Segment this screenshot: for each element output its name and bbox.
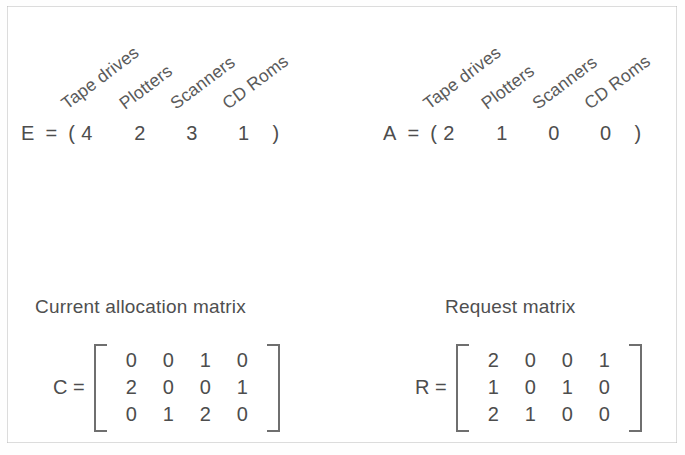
matrix-label-c: C =: [53, 376, 85, 399]
vector-value-a-1: 1: [479, 122, 525, 145]
matrix-cell-r-2-3: 0: [586, 401, 623, 428]
vector-close-paren-a: ): [635, 122, 642, 145]
matrix-cell-r-1-3: 0: [586, 374, 623, 401]
matrix-block-c: Current allocation matrix C = 0 0 1 0 2 …: [35, 296, 280, 432]
matrix-cell-c-2-1: 1: [150, 401, 187, 428]
matrix-cell-r-2-2: 0: [549, 401, 586, 428]
vector-row-a: A = ( 2 1 0 0 ): [383, 122, 642, 145]
matrix-cell-c-0-0: 0: [113, 347, 150, 374]
matrix-cell-c-0-1: 0: [150, 347, 187, 374]
vector-value-e-0: 4: [81, 122, 111, 145]
matrix-cell-c-0-3: 0: [224, 347, 261, 374]
vector-value-a-3: 0: [583, 122, 629, 145]
matrix-cell-r-1-0: 1: [475, 374, 512, 401]
vector-close-paren-e: ): [273, 122, 280, 145]
matrix-right-bracket-c: [267, 344, 280, 432]
matrix-cell-c-2-3: 0: [224, 401, 261, 428]
matrix-right-bracket-r: [629, 344, 642, 432]
matrix-cell-r-2-0: 2: [475, 401, 512, 428]
vector-equals-e: =: [46, 122, 58, 145]
vector-value-a-2: 0: [531, 122, 577, 145]
matrix-grid-c: 0 0 1 0 2 0 0 1 0 1 2 0: [107, 344, 267, 432]
matrix-row: 2 0 0 1: [113, 374, 261, 401]
matrix-body-r: R = 2 0 0 1 1 0 1 0 2 1: [415, 344, 642, 432]
vector-value-e-3: 1: [221, 122, 267, 145]
matrix-cell-r-0-2: 0: [549, 347, 586, 374]
vector-name-e: E: [21, 122, 35, 145]
matrix-cell-r-0-3: 1: [586, 347, 623, 374]
matrix-left-bracket-r: [456, 344, 469, 432]
matrix-equals-r: =: [435, 376, 447, 398]
vector-value-e-2: 3: [169, 122, 215, 145]
vector-name-a: A: [383, 122, 397, 145]
vector-value-a-0: 2: [443, 122, 473, 145]
matrix-row: 1 0 1 0: [475, 374, 623, 401]
matrix-cell-c-2-0: 0: [113, 401, 150, 428]
matrix-cell-c-1-2: 0: [187, 374, 224, 401]
figure-page: Tape drives Plotters Scanners CD Roms E …: [0, 0, 685, 455]
matrix-equals-c: =: [73, 376, 85, 398]
matrix-cell-c-1-3: 1: [224, 374, 261, 401]
vector-value-e-1: 2: [117, 122, 163, 145]
matrix-name-r: R: [415, 376, 429, 398]
matrix-label-r: R =: [415, 376, 447, 399]
vector-row-e: E = ( 4 2 3 1 ): [21, 122, 280, 145]
matrix-name-c: C: [53, 376, 67, 398]
matrix-row: 2 0 0 1: [475, 347, 623, 374]
matrix-caption-r: Request matrix: [445, 296, 642, 318]
vector-equals-a: =: [408, 122, 420, 145]
matrix-cell-c-1-1: 0: [150, 374, 187, 401]
matrix-cell-r-2-1: 1: [512, 401, 549, 428]
matrix-grid-r: 2 0 0 1 1 0 1 0 2 1 0 0: [469, 344, 629, 432]
matrix-cell-c-1-0: 2: [113, 374, 150, 401]
matrix-caption-c: Current allocation matrix: [35, 296, 280, 318]
matrix-block-r: Request matrix R = 2 0 0 1 1 0 1 0: [397, 296, 642, 432]
matrix-cell-r-1-2: 1: [549, 374, 586, 401]
matrix-cell-r-1-1: 0: [512, 374, 549, 401]
matrix-row: 0 0 1 0: [113, 347, 261, 374]
matrix-cell-r-0-1: 0: [512, 347, 549, 374]
matrix-row: 0 1 2 0: [113, 401, 261, 428]
matrix-cell-c-2-2: 2: [187, 401, 224, 428]
matrix-body-c: C = 0 0 1 0 2 0 0 1 0 1: [53, 344, 280, 432]
matrix-cell-r-0-0: 2: [475, 347, 512, 374]
matrix-cell-c-0-2: 1: [187, 347, 224, 374]
matrix-left-bracket-c: [94, 344, 107, 432]
matrix-row: 2 1 0 0: [475, 401, 623, 428]
vector-open-paren-e: (: [68, 122, 75, 145]
vector-open-paren-a: (: [430, 122, 437, 145]
